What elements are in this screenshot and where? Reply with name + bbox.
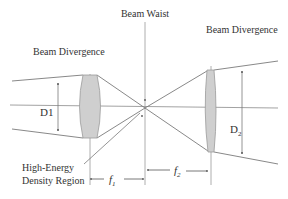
beam-out-top: [214, 61, 278, 70]
d1-marker-bottom: [57, 129, 59, 131]
waist-marker-top: [144, 99, 146, 101]
beam-in-bottom: [12, 129, 83, 138]
ray-bottom-converge: [97, 108, 145, 138]
beam-out-bottom: [214, 152, 278, 164]
beam-in-top: [12, 75, 83, 81]
f1-marker-left: [90, 178, 92, 180]
d2-marker-bottom: [241, 152, 243, 154]
f2-marker-right: [206, 170, 208, 172]
lens-1: [80, 75, 101, 138]
ray-bottom-diverge: [145, 108, 208, 151]
ray-top-diverge: [145, 71, 207, 108]
beam-divergence-left-label: Beam Divergence: [33, 46, 105, 57]
f1-label: f1: [109, 173, 116, 188]
high-energy-label-line2: Density Region: [22, 175, 85, 186]
f2-label: f2: [174, 164, 181, 179]
ray-top-converge: [97, 75, 145, 108]
beam-waist-label: Beam Waist: [121, 8, 169, 19]
beam-divergence-right-label: Beam Divergence: [206, 24, 278, 35]
high-energy-label-line1: High-Energy: [22, 162, 74, 173]
d2-marker-top: [241, 71, 243, 73]
beam-expander-diagram: Beam Waist Beam Divergence Beam Divergen…: [0, 0, 288, 199]
f2-marker-left: [147, 169, 149, 171]
f1-marker-right: [142, 178, 144, 180]
d2-label: D2: [230, 123, 242, 138]
d1-label: D1: [40, 106, 53, 118]
lens-2: [205, 70, 216, 152]
d1-marker-top: [57, 83, 59, 85]
waist-marker-bottom: [141, 115, 143, 117]
